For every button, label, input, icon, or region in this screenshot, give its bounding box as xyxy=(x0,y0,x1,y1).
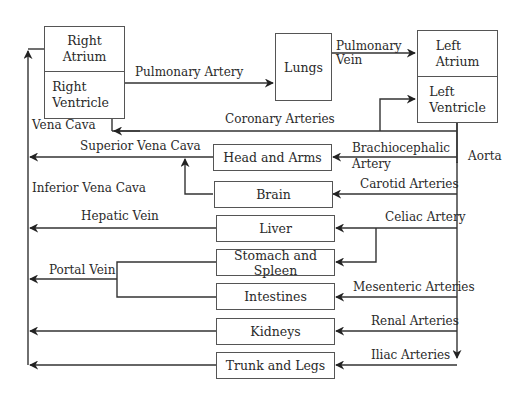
pulmonary-artery-label: Pulmonary Artery xyxy=(135,66,243,80)
renal-arteries-label: Renal Arteries xyxy=(371,315,459,329)
coronary-arteries-label: Coronary Arteries xyxy=(225,113,335,127)
left-ventricle: LeftVentricle xyxy=(418,77,497,122)
organ-stomach-and-spleen: Stomach and Spleen xyxy=(216,249,335,276)
organ-label: Head and Arms xyxy=(223,150,321,165)
coronary-to-lv-line xyxy=(380,99,415,131)
left-atrium-label-2: Atrium xyxy=(436,54,480,70)
vena-cava-label: Vena Cava xyxy=(32,119,96,133)
lungs-label: Lungs xyxy=(284,60,323,75)
left-heart-box: LeftAtrium LeftVentricle xyxy=(417,30,498,123)
pulmonary-vein-label-2: Vein xyxy=(336,54,362,68)
aorta-label: Aorta xyxy=(468,150,502,164)
mesenteric-arteries-label: Mesenteric Arteries xyxy=(353,281,475,295)
organ-label: Trunk and Legs xyxy=(226,358,326,373)
left-ventricle-label-2: Ventricle xyxy=(429,100,486,116)
right-heart-box: RightAtrium RightVentricle xyxy=(44,26,125,119)
organ-intestines: Intestines xyxy=(216,283,335,310)
right-atrium: RightAtrium xyxy=(45,27,124,72)
right-atrium-label-1: Right xyxy=(63,33,107,49)
brachiocephalic-label-1: Brachiocephalic xyxy=(352,142,450,156)
organ-label: Brain xyxy=(256,187,291,202)
organ-label: Intestines xyxy=(244,289,307,304)
organ-head-and-arms: Head and Arms xyxy=(213,144,332,171)
inferior-vena-cava-label: Inferior Vena Cava xyxy=(32,182,146,196)
organ-kidneys: Kidneys xyxy=(216,318,335,345)
right-ventricle-label-2: Ventricle xyxy=(52,95,109,111)
carotid-arteries-label: Carotid Arteries xyxy=(360,178,459,192)
organ-label: Stomach and Spleen xyxy=(217,248,334,278)
left-atrium: LeftAtrium xyxy=(418,31,497,77)
organ-trunk-and-legs: Trunk and Legs xyxy=(216,352,335,379)
iliac-arteries-label: Iliac Arteries xyxy=(371,349,450,363)
lungs-box: Lungs xyxy=(275,33,332,101)
organ-label: Kidneys xyxy=(250,324,300,339)
superior-vena-cava-label: Superior Vena Cava xyxy=(80,140,201,154)
right-ventricle-label-1: Right xyxy=(52,79,109,95)
left-ventricle-label-1: Left xyxy=(429,84,486,100)
organ-label: Liver xyxy=(259,221,292,236)
right-ventricle: RightVentricle xyxy=(45,72,124,118)
hepatic-vein-label: Hepatic Vein xyxy=(81,210,159,224)
organ-brain: Brain xyxy=(214,181,333,208)
left-atrium-label-1: Left xyxy=(436,38,480,54)
brachiocephalic-label-2: Artery xyxy=(352,158,391,172)
portal-vein-label: Portal Vein xyxy=(49,264,115,278)
pulmonary-vein-label-1: Pulmonary xyxy=(336,40,402,54)
organ-liver: Liver xyxy=(216,215,335,242)
celiac-artery-label: Celiac Artery xyxy=(385,211,466,225)
right-atrium-label-2: Atrium xyxy=(63,49,107,65)
